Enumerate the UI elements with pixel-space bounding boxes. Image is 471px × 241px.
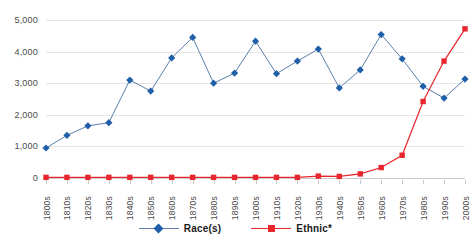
series-line <box>46 35 465 148</box>
legend-item-ethnic[interactable]: Ethnic* <box>251 223 332 234</box>
x-axis-tick-mark <box>235 180 236 184</box>
x-axis-tick-label: 1900s <box>251 196 261 220</box>
series-races <box>42 31 468 152</box>
legend-swatch <box>251 223 291 233</box>
y-axis-labels: 01,0002,0003,0004,0005,000 <box>0 20 42 178</box>
x-axis-tick-label: 1870s <box>188 196 198 220</box>
chart-legend: Race(s)Ethnic* <box>0 218 471 238</box>
x-axis-tick-label: 1950s <box>356 196 366 220</box>
x-axis-tick-label: 1840s <box>125 196 135 220</box>
x-axis-tick-mark <box>360 180 361 184</box>
x-axis-tick-mark <box>151 180 152 184</box>
x-axis-tick-mark <box>276 180 277 184</box>
legend-marker-square-icon <box>268 225 275 232</box>
x-axis-tick-label: 1940s <box>335 196 345 220</box>
data-point-marker-diamond <box>147 88 154 95</box>
legend-swatch <box>139 223 179 233</box>
x-axis-tick-mark <box>109 180 110 184</box>
x-axis-tick-mark <box>256 180 257 184</box>
chart-container: 01,0002,0003,0004,0005,000 1800s1810s182… <box>0 0 471 241</box>
data-point-marker-diamond <box>210 80 217 87</box>
data-point-marker-square <box>441 58 446 63</box>
x-axis-tick-mark <box>381 180 382 184</box>
data-point-marker-square <box>358 171 363 176</box>
x-axis-tick-mark <box>339 180 340 184</box>
x-axis-tick-mark <box>193 180 194 184</box>
data-point-marker-diamond <box>315 45 322 52</box>
x-axis-tick-mark <box>444 180 445 184</box>
data-point-marker-diamond <box>105 119 112 126</box>
x-axis-tick-label: 1850s <box>146 196 156 220</box>
x-axis-tick-label: 1800s <box>42 196 52 220</box>
x-axis-tick-label: 1960s <box>377 196 387 220</box>
x-axis-labels: 1800s1810s1820s1830s1840s1850s1860s1870s… <box>46 180 465 220</box>
y-axis-tick-label: 0 <box>33 173 38 183</box>
x-axis-tick-label: 1920s <box>293 196 303 220</box>
x-axis-tick-mark <box>46 180 47 184</box>
x-axis-tick-mark <box>88 180 89 184</box>
data-point-marker-diamond <box>84 122 91 129</box>
x-axis-tick-mark <box>214 180 215 184</box>
y-axis-tick-label: 3,000 <box>14 78 38 88</box>
data-point-marker-diamond <box>126 76 133 83</box>
y-axis-tick-label: 1,000 <box>14 141 38 151</box>
x-axis-tick-label: 1990s <box>440 196 450 220</box>
x-axis-tick-mark <box>423 180 424 184</box>
data-point-marker-square <box>316 173 321 178</box>
data-point-marker-square <box>337 174 342 179</box>
x-axis-tick-mark <box>67 180 68 184</box>
x-axis-tick-label: 1980s <box>419 196 429 220</box>
x-axis-tick-mark <box>402 180 403 184</box>
data-point-marker-diamond <box>231 69 238 76</box>
x-axis-tick-label: 1820s <box>83 196 93 220</box>
x-axis-tick-mark <box>297 180 298 184</box>
x-axis-tick-label: 1830s <box>104 196 114 220</box>
x-axis-tick-mark <box>318 180 319 184</box>
data-point-marker-square <box>399 153 404 158</box>
x-axis-tick-mark <box>172 180 173 184</box>
legend-label: Ethnic* <box>296 223 332 234</box>
data-point-marker-diamond <box>294 57 301 64</box>
data-point-marker-diamond <box>42 144 49 151</box>
x-axis-tick-label: 1910s <box>272 196 282 220</box>
data-point-marker-square <box>462 26 467 31</box>
x-axis-tick-label: 1890s <box>230 196 240 220</box>
x-axis-tick-label: 1810s <box>62 196 72 220</box>
legend-marker-diamond-icon <box>154 223 164 233</box>
x-axis-tick-label: 1880s <box>209 196 219 220</box>
x-axis-tick-mark <box>465 180 466 184</box>
data-point-marker-square <box>379 165 384 170</box>
data-point-marker-diamond <box>63 132 70 139</box>
series-ethnic <box>43 26 467 180</box>
y-axis-tick-label: 4,000 <box>14 47 38 57</box>
plot-area <box>46 20 465 178</box>
data-point-marker-diamond <box>252 38 259 45</box>
data-point-marker-diamond <box>273 70 280 77</box>
data-series-layer <box>46 20 465 178</box>
x-axis-tick-mark <box>130 180 131 184</box>
legend-label: Race(s) <box>184 223 222 234</box>
y-axis-tick-label: 2,000 <box>14 110 38 120</box>
x-axis-tick-label: 2000s <box>461 196 471 220</box>
x-axis-tick-label: 1930s <box>314 196 324 220</box>
legend-item-races[interactable]: Race(s) <box>139 223 222 234</box>
x-axis-tick-label: 1860s <box>167 196 177 220</box>
x-axis-tick-label: 1970s <box>398 196 408 220</box>
data-point-marker-square <box>420 99 425 104</box>
y-axis-tick-label: 5,000 <box>14 15 38 25</box>
